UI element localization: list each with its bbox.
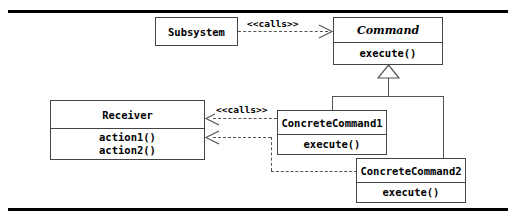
- class-name-subsystem: Subsystem: [168, 26, 225, 38]
- generalization-crossbar: [332, 96, 444, 97]
- compartment-name-concrete-command-1: ConcreteCommand1: [278, 111, 386, 134]
- compartment-operations-command: execute(): [334, 42, 442, 64]
- bottom-rule: [8, 208, 508, 211]
- generalization-branch-cc1: [332, 96, 333, 110]
- compartment-name-subsystem: Subsystem: [156, 18, 237, 45]
- stereotype-calls-concrete-receiver: <<calls>>: [215, 104, 268, 115]
- dependency-line-cc2-receiver-lower: [271, 171, 357, 172]
- dependency-line-cc1-receiver: [213, 118, 277, 119]
- class-box-command[interactable]: Command execute(): [333, 17, 443, 65]
- compartment-operations-receiver: action1() action2(): [51, 128, 204, 159]
- compartment-name-concrete-command-2: ConcreteCommand2: [357, 159, 465, 182]
- compartment-operations-concrete-command-2: execute(): [357, 182, 465, 202]
- class-name-receiver: Receiver: [102, 109, 153, 121]
- uml-diagram-canvas: <<calls>> <<calls>> Subsystem Command ex…: [0, 0, 516, 222]
- class-name-command: Command: [357, 24, 419, 37]
- top-rule: [8, 10, 508, 13]
- class-name-concrete-command-1: ConcreteCommand1: [281, 117, 382, 129]
- class-box-receiver[interactable]: Receiver action1() action2(): [50, 100, 205, 160]
- generalization-branch-cc2: [443, 96, 444, 158]
- stereotype-calls-subsystem-command: <<calls>>: [246, 18, 299, 29]
- class-box-concrete-command-2[interactable]: ConcreteCommand2 execute(): [356, 158, 466, 203]
- compartment-operations-concrete-command-1: execute(): [278, 134, 386, 154]
- open-arrowhead-to-receiver-bottom: [203, 129, 221, 146]
- operation-execute: execute(): [360, 47, 417, 60]
- class-name-concrete-command-2: ConcreteCommand2: [360, 165, 461, 177]
- dependency-line-cc2-receiver-vertical: [271, 137, 272, 171]
- operation-action1: action1(): [99, 131, 156, 144]
- generalization-stem: [388, 77, 389, 96]
- operation-execute-cc1: execute(): [304, 138, 361, 151]
- dependency-line-subsystem-command: [238, 31, 328, 32]
- operation-execute-cc2: execute(): [383, 186, 440, 199]
- generalization-triangle-icon: [377, 64, 400, 79]
- compartment-name-receiver: Receiver: [51, 101, 204, 128]
- class-box-concrete-command-1[interactable]: ConcreteCommand1 execute(): [277, 110, 387, 155]
- dependency-line-cc2-receiver-upper: [213, 137, 271, 138]
- class-box-subsystem[interactable]: Subsystem: [155, 17, 238, 46]
- compartment-name-command: Command: [334, 18, 442, 42]
- operation-action2: action2(): [99, 144, 156, 157]
